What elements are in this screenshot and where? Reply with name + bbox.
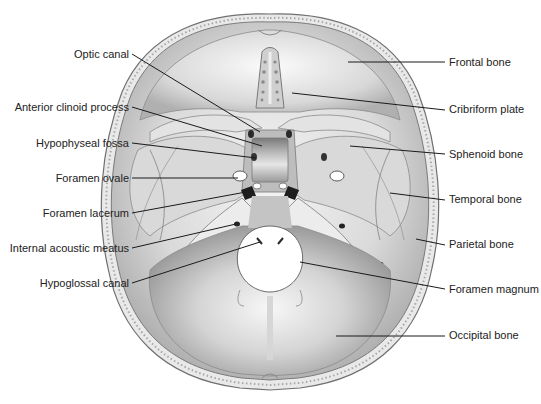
label-hypoglossal-canal: Hypoglossal canal: [40, 277, 129, 290]
label-occipital-bone: Occipital bone: [449, 329, 519, 342]
label-internal-acoustic-meatus: Internal acoustic meatus: [10, 242, 129, 255]
label-foramen-magnum: Foramen magnum: [449, 283, 539, 296]
label-foramen-lacerum: Foramen lacerum: [43, 207, 129, 220]
label-temporal-bone: Temporal bone: [449, 193, 522, 206]
label-sphenoid-bone: Sphenoid bone: [449, 148, 523, 161]
label-cribriform-plate: Cribriform plate: [449, 103, 524, 116]
skull-base-diagram: Optic canal Anterior clinoid process Hyp…: [0, 0, 541, 404]
label-foramen-ovale: Foramen ovale: [56, 172, 129, 185]
label-frontal-bone: Frontal bone: [449, 56, 511, 69]
label-optic-canal: Optic canal: [74, 48, 129, 61]
label-parietal-bone: Parietal bone: [449, 238, 514, 251]
label-hypophyseal-fossa: Hypophyseal fossa: [36, 137, 129, 150]
label-anterior-clinoid-process: Anterior clinoid process: [15, 101, 129, 114]
